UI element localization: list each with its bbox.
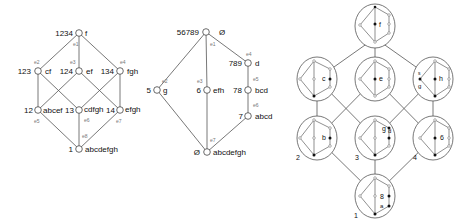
concept-letter: d (388, 128, 391, 134)
node-label-ext: cdfgh (84, 105, 104, 114)
concept-letter: b (322, 134, 326, 141)
node-label-id: Ø (194, 148, 200, 157)
node-789[interactable] (245, 60, 252, 67)
node-label-ext: bcd (255, 86, 268, 95)
edge-label: e4 (120, 59, 126, 65)
node-label-id: 5 (147, 86, 152, 95)
node-label-id: 7 (239, 112, 244, 121)
node-6[interactable] (204, 87, 211, 94)
edge-label: e3 (70, 59, 76, 65)
node-label-id: 123 (18, 67, 32, 76)
concept-number: 4 (413, 154, 417, 161)
edge-label: e5 (253, 76, 259, 82)
edge-label: e6 (253, 102, 259, 108)
panel-2-concept-lattice: 56789 Ø 789 d 5 g 6 efh 78 bcd 7 abcd Ø … (147, 28, 273, 157)
node-7[interactable] (245, 113, 252, 120)
node-1234[interactable] (76, 30, 83, 37)
lattice-diagrams: 1234 f 123 cf 124 ef 134 fgh 12 abcef 13… (0, 0, 470, 220)
node-label-id: 13 (65, 106, 74, 115)
edge-label: e3 (197, 78, 203, 84)
concept-letter: 6 (440, 134, 444, 141)
node-56789[interactable] (203, 29, 210, 36)
edge-label: e5 (34, 118, 40, 124)
concept-number: 3 (355, 154, 359, 161)
edge-label: e1 (210, 41, 216, 47)
node-124[interactable] (76, 68, 83, 75)
edge-label: e2 (162, 78, 168, 84)
node-label-id: 1234 (55, 29, 73, 38)
node-label-id: 6 (197, 86, 202, 95)
concept-mid-right[interactable]: h s g (413, 57, 453, 101)
node-label-ext: abcdefgh (213, 148, 246, 157)
concept-letter: g (382, 125, 386, 133)
concept-low-left[interactable]: b 2 (296, 116, 337, 161)
node-label-ext: fgh (127, 67, 138, 76)
node-13[interactable] (76, 107, 83, 114)
concept-bottom[interactable]: 8 a 1 (354, 174, 395, 219)
node-label-ext: abcd (255, 112, 272, 121)
node-label-ext: f (85, 29, 88, 38)
concept-letter: e (379, 75, 383, 82)
node-label-id: 124 (60, 67, 74, 76)
concept-letter: f (379, 21, 381, 28)
node-134[interactable] (117, 68, 124, 75)
node-label-id: 14 (106, 106, 115, 115)
node-label-ext: abcdefgh (85, 145, 118, 154)
node-label-ext: abcef (43, 106, 63, 115)
concept-number: 1 (354, 212, 358, 219)
node-label-ext: Ø (219, 28, 225, 37)
node-label-id: 56789 (177, 28, 200, 37)
concept-letter: g (418, 83, 421, 89)
concept-letter: c (322, 75, 326, 82)
edge-label: e4 (246, 51, 252, 57)
edge-label: e7 (116, 118, 122, 124)
concept-letter: 8 (380, 193, 384, 200)
panel-3-nested-lattice: f c e (296, 4, 453, 219)
node-12[interactable] (35, 107, 42, 114)
edge-label: e1 (73, 41, 79, 47)
node-label-ext: efh (213, 86, 224, 95)
concept-low-center[interactable]: g d 3 (355, 116, 395, 161)
edge-label: e2 (34, 59, 40, 65)
node-5[interactable] (154, 87, 161, 94)
edge-label: e6 (84, 117, 90, 123)
concept-mid-left[interactable]: c (297, 57, 337, 101)
node-label-id: 78 (233, 86, 242, 95)
node-label-ext: cf (45, 67, 52, 76)
node-label-ext: ef (86, 67, 93, 76)
node-78[interactable] (245, 87, 252, 94)
node-label-ext: d (255, 59, 259, 68)
concept-top[interactable]: f (355, 4, 395, 48)
node-14[interactable] (117, 107, 124, 114)
concept-low-right[interactable]: 6 4 (413, 116, 453, 161)
node-label-ext: g (163, 86, 167, 95)
concept-mid-center[interactable]: e (355, 57, 395, 101)
edge-label: e8 (82, 133, 88, 139)
concept-letter: h (439, 75, 443, 82)
node-empty[interactable] (204, 149, 211, 156)
panel-1-concept-lattice: 1234 f 123 cf 124 ef 134 fgh 12 abcef 13… (18, 29, 141, 154)
node-123[interactable] (35, 68, 42, 75)
node-label-ext: efgh (125, 105, 141, 114)
node-label-id: 789 (229, 59, 243, 68)
concept-number: 2 (296, 154, 300, 161)
node-label-id: 134 (101, 67, 115, 76)
node-label-id: 1 (69, 145, 74, 154)
node-label-id: 12 (24, 106, 33, 115)
edge-label: e7 (210, 137, 216, 143)
node-1[interactable] (76, 146, 83, 153)
